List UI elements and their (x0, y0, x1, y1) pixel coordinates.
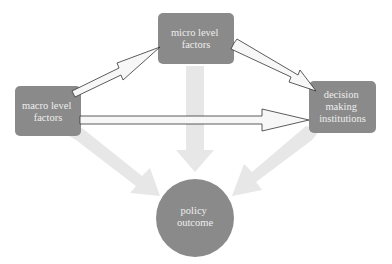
outcome-label-line-2: outcome (177, 217, 213, 228)
micro-label-line-1: micro level (171, 27, 219, 38)
decision-label-line-2: making (325, 101, 357, 112)
micro-label-line-2: factors (182, 39, 211, 50)
arrow-macro-to-micro (72, 47, 160, 97)
macro-label-line-2: factors (34, 112, 63, 123)
influence-arrows (62, 66, 320, 196)
policy-diagram: micro level factors macro level factors … (0, 0, 392, 264)
node-macro-level-factors: macro level factors (15, 86, 81, 136)
svg-text:policy outcome: policy outcome (177, 205, 213, 228)
macro-label-line-1: macro level (22, 100, 71, 111)
node-micro-level-factors: micro level factors (158, 13, 234, 64)
node-decision-making-institutions: decision making institutions (309, 81, 376, 133)
outcome-label-line-1: policy (181, 205, 208, 216)
arrow-micro-to-decision (231, 39, 316, 91)
node-policy-outcome: policy outcome (156, 179, 234, 257)
arrow-macro-to-outcome (62, 128, 160, 196)
decision-label-line-1: decision (324, 89, 360, 100)
svg-text:decision making in: decision making institutions (319, 89, 366, 124)
arrow-decision-to-outcome (232, 126, 320, 196)
decision-label-line-3: institutions (319, 113, 366, 124)
